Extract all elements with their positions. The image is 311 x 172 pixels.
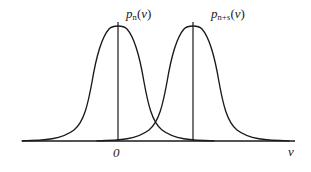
curve-label-p-n-plus-s-subscript: n+s	[218, 12, 231, 22]
curve-label-p-n-plus-s: pn+s(ν)	[211, 6, 245, 22]
curve-label-p-n-plus-s-close-paren: )	[241, 6, 245, 21]
curve-label-p-n: pn(ν)	[126, 6, 151, 22]
probability-density-plot	[0, 0, 311, 172]
figure-container: pn(ν) pn+s(ν) 0 ν	[0, 0, 311, 172]
axis-label-nu: ν	[288, 144, 294, 160]
origin-tick-label: 0	[113, 145, 120, 161]
curve-label-p-n-close-paren: )	[147, 6, 151, 21]
